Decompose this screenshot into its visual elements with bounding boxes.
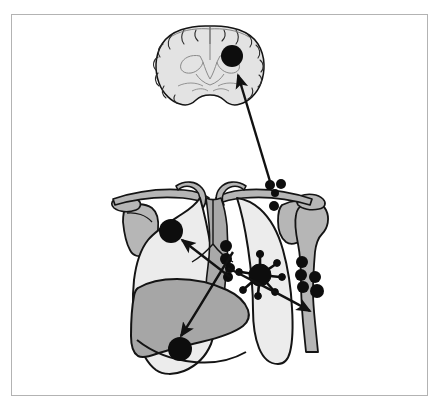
- thorax-panel: [112, 75, 328, 374]
- lesion-contralateral-lung-metastasis: [159, 219, 183, 243]
- figure-page: [0, 0, 439, 411]
- medical-illustration: [0, 0, 439, 411]
- lesion-liver-metastasis: [168, 337, 192, 361]
- lesion-brain-metastasis: [221, 45, 243, 67]
- brain-coronal-section: [154, 26, 264, 105]
